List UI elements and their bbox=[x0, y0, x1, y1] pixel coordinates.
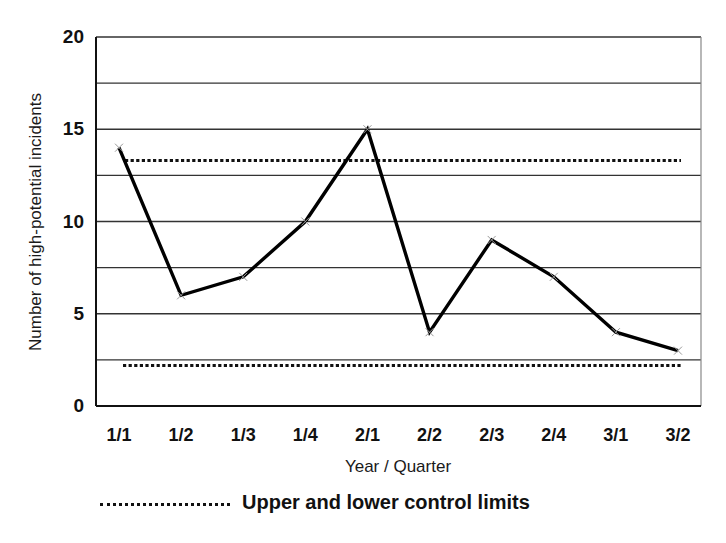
legend: Upper and lower control limits bbox=[100, 491, 530, 514]
y-axis-title: Number of high-potential incidents bbox=[26, 93, 46, 351]
incident-series-line bbox=[119, 129, 678, 350]
y-tick-label: 5 bbox=[44, 303, 84, 325]
legend-label: Upper and lower control limits bbox=[242, 491, 530, 514]
legend-dotted-line-icon bbox=[100, 503, 230, 506]
x-tick-label: 2/3 bbox=[479, 425, 504, 446]
y-tick-label: 15 bbox=[44, 118, 84, 140]
y-tick-label: 0 bbox=[44, 395, 84, 417]
x-tick-label: 2/1 bbox=[355, 425, 380, 446]
control-limit-lines bbox=[123, 161, 683, 366]
x-tick-label: 1/3 bbox=[231, 425, 256, 446]
x-tick-label: 3/2 bbox=[665, 425, 690, 446]
x-tick-label: 2/2 bbox=[417, 425, 442, 446]
y-tick-label: 10 bbox=[44, 211, 84, 233]
x-tick-label: 2/4 bbox=[541, 425, 566, 446]
x-tick-label: 3/1 bbox=[603, 425, 628, 446]
x-tick-label: 1/1 bbox=[106, 425, 131, 446]
x-tick-label: 1/2 bbox=[169, 425, 194, 446]
x-axis-title: Year / Quarter bbox=[345, 457, 451, 477]
x-tick-label: 1/4 bbox=[293, 425, 318, 446]
y-tick-label: 20 bbox=[44, 26, 84, 48]
gridlines bbox=[96, 83, 701, 360]
